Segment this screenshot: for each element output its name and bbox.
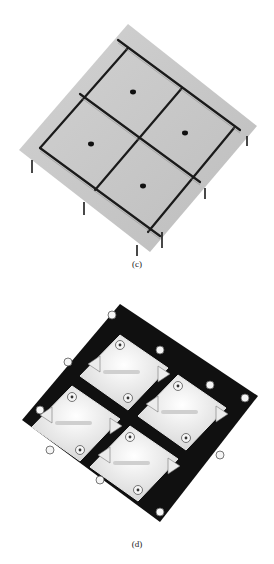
figure-panel-c: (c) [0,0,274,280]
panel-label-d: (d) [0,539,274,549]
panel-label-c: (c) [0,259,274,269]
figure-panel-d: (d) [0,280,274,564]
surface-plot-c [0,0,274,280]
surface-plot-d [0,280,274,564]
